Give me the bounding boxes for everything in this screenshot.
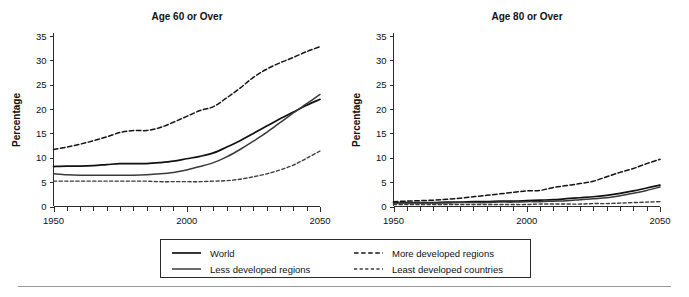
- y-tick-label: 25: [376, 79, 387, 90]
- legend-label: Less developed regions: [210, 264, 311, 275]
- x-tick-label: 2050: [309, 215, 330, 226]
- y-tick-label: 0: [381, 201, 386, 212]
- x-tick-label: 1950: [383, 215, 404, 226]
- y-tick-label: 20: [36, 104, 47, 115]
- x-tick-label: 1950: [43, 215, 64, 226]
- chart-legend: WorldMore developed regionsLess develope…: [161, 240, 531, 278]
- panel-title-age-60: Age 60 or Over: [151, 11, 222, 22]
- panel-title-age-80: Age 80 or Over: [491, 11, 562, 22]
- y-tick-label: 20: [376, 104, 387, 115]
- y-tick-label: 10: [376, 152, 387, 163]
- y-tick-label: 0: [41, 201, 46, 212]
- legend-label: World: [210, 248, 235, 259]
- x-tick-label: 2000: [176, 215, 197, 226]
- y-tick-label: 5: [41, 177, 46, 188]
- y-tick-label: 35: [36, 31, 47, 42]
- legend-label: More developed regions: [392, 248, 494, 259]
- y-tick-label: 15: [36, 128, 47, 139]
- y-tick-label: 10: [36, 152, 47, 163]
- x-tick-label: 2000: [516, 215, 537, 226]
- y-tick-label: 15: [376, 128, 387, 139]
- legend-label: Least developed countries: [392, 264, 503, 275]
- y-axis-label-right: Percentage: [351, 93, 362, 147]
- y-tick-label: 35: [376, 31, 387, 42]
- y-axis-label-left: Percentage: [11, 93, 22, 147]
- two-panel-line-chart: Age 60 or Over Percentage 05101520253035…: [0, 0, 689, 297]
- y-tick-label: 5: [381, 177, 386, 188]
- y-tick-label: 30: [36, 55, 47, 66]
- y-tick-label: 25: [36, 79, 47, 90]
- y-tick-label: 30: [376, 55, 387, 66]
- x-tick-label: 2050: [649, 215, 670, 226]
